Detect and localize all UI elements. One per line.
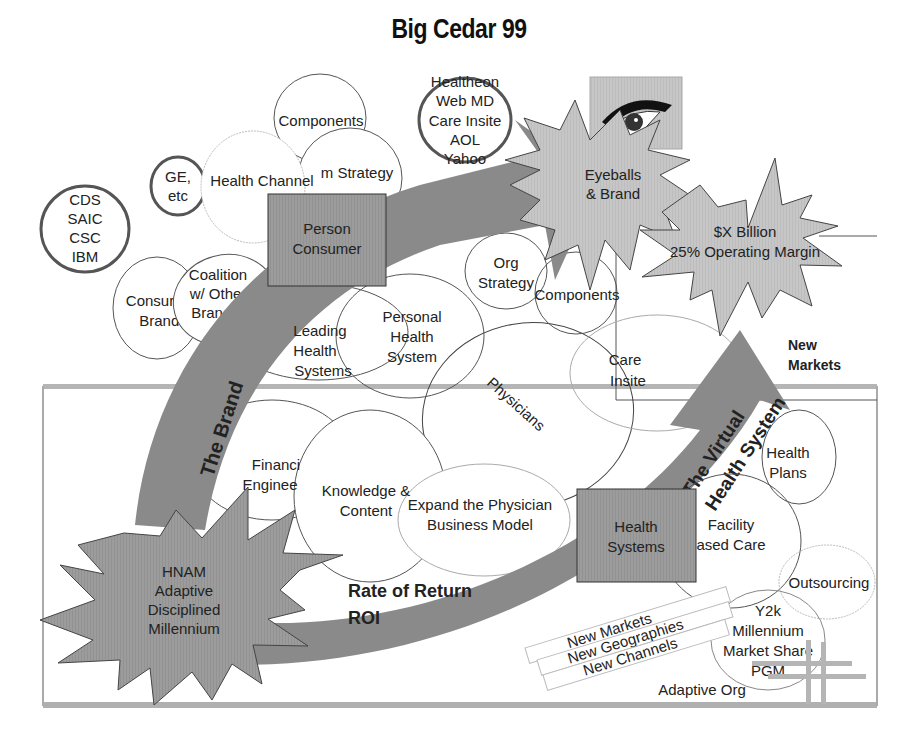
svg-text:ased Care: ased Care: [696, 536, 765, 553]
label-adaptive-org: Adaptive Org: [658, 681, 746, 698]
svg-text:etc: etc: [168, 187, 189, 204]
svg-text:Knowledge &: Knowledge &: [322, 482, 410, 499]
circle-ge-etc: GE, etc: [151, 157, 205, 215]
circle-cds-saic: CDS SAIC CSC IBM: [41, 186, 129, 272]
label-new-markets: New Markets: [788, 337, 841, 373]
svg-text:CSC: CSC: [69, 229, 101, 246]
svg-text:Expand the Physician: Expand the Physician: [408, 496, 552, 513]
svg-text:Health Channel: Health Channel: [210, 172, 313, 189]
diagram-canvas: CDS SAIC CSC IBM GE, etc Components m St…: [0, 0, 918, 742]
svg-text:Systems: Systems: [294, 362, 352, 379]
svg-text:25% Operating Margin: 25% Operating Margin: [670, 243, 820, 260]
svg-text:Enginee: Enginee: [242, 476, 297, 493]
svg-text:Y2k: Y2k: [755, 602, 781, 619]
svg-text:Millennium: Millennium: [148, 620, 220, 637]
banner-strips: New Markets New Geographies New Channels: [525, 586, 733, 691]
svg-text:Facility: Facility: [708, 516, 755, 533]
svg-text:Content: Content: [340, 502, 393, 519]
circle-healtheon: Healtheon Web MD Care Insite AOL Yahoo: [419, 73, 511, 167]
svg-text:Personal: Personal: [382, 308, 441, 325]
svg-text:Health: Health: [614, 518, 657, 535]
svg-text:System: System: [387, 348, 437, 365]
svg-text:Healtheon: Healtheon: [431, 73, 499, 90]
svg-text:Health: Health: [293, 342, 336, 359]
box-person-consumer: Person Consumer: [268, 194, 386, 286]
svg-text:Outsourcing: Outsourcing: [789, 574, 870, 591]
svg-text:AOL: AOL: [450, 131, 480, 148]
svg-text:Components: Components: [278, 112, 363, 129]
svg-text:ROI: ROI: [348, 608, 380, 628]
svg-text:Disciplined: Disciplined: [148, 601, 221, 618]
svg-text:SAIC: SAIC: [67, 210, 102, 227]
svg-text:$X Billion: $X Billion: [714, 223, 777, 240]
box-health-systems: Health Systems: [577, 489, 696, 582]
svg-text:Yahoo: Yahoo: [444, 150, 486, 167]
svg-text:Markets: Markets: [788, 357, 841, 373]
svg-text:Person: Person: [303, 220, 351, 237]
svg-text:Millennium: Millennium: [732, 622, 804, 639]
svg-text:Physicians: Physicians: [484, 374, 549, 435]
svg-text:Coalition: Coalition: [189, 266, 247, 283]
svg-text:Systems: Systems: [607, 538, 665, 555]
svg-text:Care: Care: [609, 351, 642, 368]
svg-text:New: New: [788, 337, 817, 353]
circle-outsourcing: Outsourcing: [779, 545, 875, 619]
svg-text:Business Model: Business Model: [427, 516, 533, 533]
svg-text:Leading: Leading: [293, 322, 346, 339]
svg-text:Market Share: Market Share: [723, 642, 813, 659]
svg-text:HNAM: HNAM: [162, 563, 206, 580]
svg-text:& Brand: & Brand: [586, 185, 640, 202]
svg-text:Strategy: Strategy: [478, 274, 534, 291]
svg-text:CDS: CDS: [69, 191, 101, 208]
svg-text:Insite: Insite: [610, 372, 646, 389]
svg-text:Rate of Return: Rate of Return: [348, 581, 472, 601]
svg-text:Plans: Plans: [769, 464, 807, 481]
svg-text:Adaptive: Adaptive: [155, 582, 213, 599]
svg-text:Consur: Consur: [126, 292, 174, 309]
svg-text:GE,: GE,: [165, 168, 191, 185]
svg-text:Web MD: Web MD: [436, 92, 494, 109]
svg-text:Financi: Financi: [252, 456, 300, 473]
svg-text:Health: Health: [390, 328, 433, 345]
svg-text:Care Insite: Care Insite: [429, 112, 502, 129]
svg-text:IBM: IBM: [72, 248, 99, 265]
svg-text:m Strategy: m Strategy: [321, 164, 394, 181]
svg-text:Org: Org: [493, 254, 518, 271]
svg-text:Health: Health: [766, 444, 809, 461]
circle-health-plans: Health Plans: [762, 410, 836, 504]
svg-text:Eyeballs: Eyeballs: [585, 166, 642, 183]
svg-text:Consumer: Consumer: [292, 240, 361, 257]
svg-text:Components: Components: [534, 286, 619, 303]
star-billion: $X Billion 25% Operating Margin: [640, 158, 877, 336]
